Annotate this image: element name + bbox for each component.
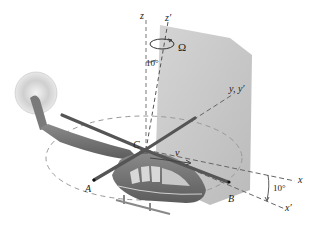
label-v: v <box>175 147 180 158</box>
label-x-prime: x′ <box>284 202 292 213</box>
label-angle-x: 10° <box>273 183 286 193</box>
label-B: B <box>228 193 234 204</box>
label-y: y, y′ <box>228 83 245 94</box>
diagram-canvas: z z′ Ω 10° y, y′ C v A B x x′ 10° <box>0 0 321 231</box>
label-C: C <box>133 139 140 150</box>
label-omega: Ω <box>178 41 186 53</box>
label-A: A <box>84 183 92 194</box>
label-z-prime: z′ <box>164 12 172 23</box>
label-x: x <box>297 174 303 185</box>
helicopter-diagram: z z′ Ω 10° y, y′ C v A B x x′ 10° <box>0 0 321 231</box>
label-angle-z: 10° <box>146 58 159 68</box>
label-z: z <box>139 10 144 21</box>
